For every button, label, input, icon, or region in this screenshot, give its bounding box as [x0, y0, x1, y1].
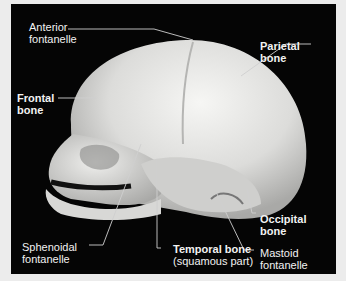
label-line: Parietal [260, 40, 300, 52]
label-line: Frontal [17, 92, 54, 104]
label-line: bone [260, 52, 300, 64]
label-anterior-fontanelle: Anterior fontanelle [29, 21, 77, 45]
label-line: fontanelle [22, 253, 77, 265]
label-line: fontanelle [260, 259, 308, 271]
label-line: bone [17, 104, 54, 116]
label-sphenoidal-fontanelle: Sphenoidal fontanelle [22, 241, 77, 265]
label-frontal-bone: Frontal bone [17, 92, 54, 116]
figure-panel: Anterior fontanelle Parietal bone Fronta… [11, 4, 336, 274]
label-line: Mastoid [260, 247, 308, 259]
label-occipital-bone: Occipital bone [260, 213, 306, 237]
label-parietal-bone: Parietal bone [260, 40, 300, 64]
label-line: (squamous part) [173, 255, 253, 267]
label-mastoid-fontanelle: Mastoid fontanelle [260, 247, 308, 271]
label-line: Sphenoidal [22, 241, 77, 253]
label-line: fontanelle [29, 33, 77, 45]
label-line: bone [260, 225, 306, 237]
label-temporal-bone: Temporal bone (squamous part) [173, 243, 253, 267]
label-line: Occipital [260, 213, 306, 225]
label-line: Temporal bone [173, 243, 253, 255]
label-line: Anterior [29, 21, 77, 33]
